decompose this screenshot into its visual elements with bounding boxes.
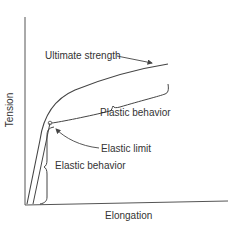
- elastic-limit-label: Elastic limit: [101, 144, 151, 154]
- stress-strain-diagram: Ultimate strength Plastic behavior Elast…: [0, 0, 239, 230]
- y-axis-label: Tension: [5, 93, 15, 127]
- elastic-behavior-label: Elastic behavior: [55, 161, 126, 171]
- ultimate-strength-arrow: [117, 56, 152, 63]
- x-axis: [25, 201, 228, 205]
- elastic-behavior-brace: [40, 127, 54, 204]
- ultimate-strength-label: Ultimate strength: [45, 51, 121, 61]
- x-axis-label: Elongation: [105, 211, 152, 221]
- plastic-behavior-label: Plastic behavior: [100, 108, 171, 118]
- elastic-limit-arrow: [56, 129, 99, 148]
